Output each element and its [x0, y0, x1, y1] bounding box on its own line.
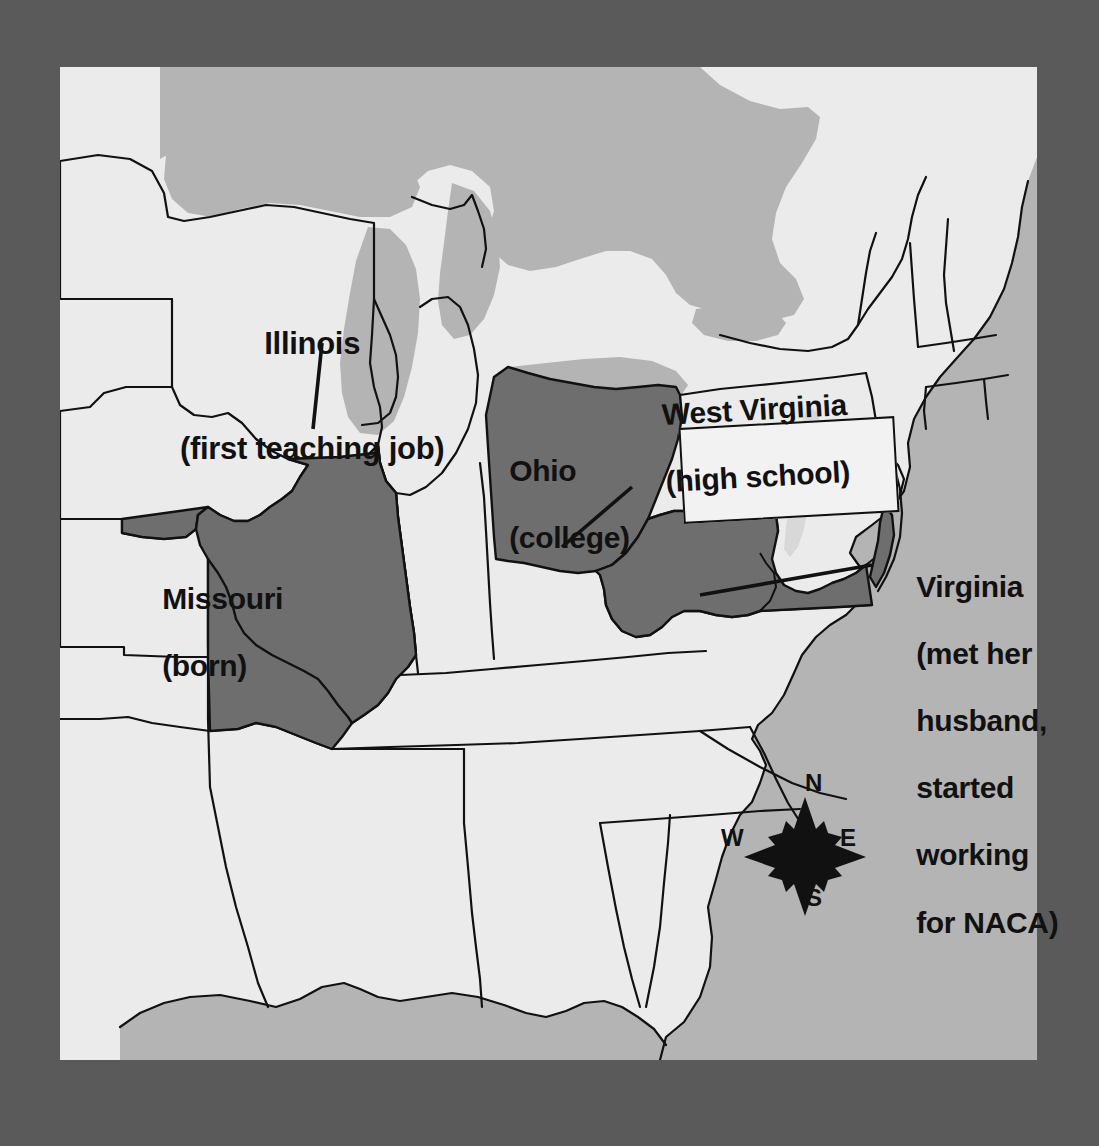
label-virginia-note-4: working	[916, 838, 1029, 871]
label-virginia-note-2: husband,	[916, 704, 1047, 737]
compass-south-label: S	[806, 884, 822, 912]
label-ohio[interactable]: Ohio (college)	[477, 420, 630, 588]
label-virginia-note-5: for NACA)	[916, 906, 1058, 939]
compass-east-label: E	[840, 824, 856, 852]
label-missouri[interactable]: Missouri (born)	[130, 548, 283, 716]
label-west-virginia[interactable]: West Virginia (high school)	[627, 354, 853, 534]
map-page: Illinois (first teaching job) Missouri (…	[0, 0, 1099, 1146]
label-missouri-state: Missouri	[162, 582, 283, 615]
label-illinois[interactable]: Illinois (first teaching job)	[180, 258, 444, 536]
label-west-virginia-note: (high school)	[665, 455, 851, 498]
label-virginia-note-1: (met her	[916, 637, 1032, 670]
label-virginia[interactable]: Virginia (met her husband, started worki…	[884, 536, 1058, 973]
label-illinois-state: Illinois	[180, 327, 444, 362]
label-ohio-note: (college)	[509, 521, 630, 554]
label-illinois-note: (first teaching job)	[180, 432, 444, 467]
label-west-virginia-state: West Virginia	[661, 387, 848, 430]
compass-west-label: W	[721, 824, 744, 852]
compass-north-label: N	[805, 769, 822, 797]
label-missouri-note: (born)	[162, 649, 247, 682]
label-virginia-state: Virginia	[916, 570, 1023, 603]
label-ohio-state: Ohio	[509, 454, 576, 487]
label-virginia-note-3: started	[916, 771, 1014, 804]
